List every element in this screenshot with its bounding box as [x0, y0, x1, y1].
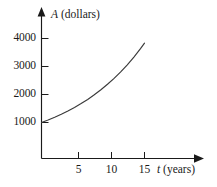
x-tick-label-15: 15 [134, 163, 156, 175]
y-axis-arrow-icon [38, 7, 46, 17]
x-axis-unit: (years) [163, 163, 195, 175]
x-tick-label-10: 10 [101, 163, 123, 175]
y-axis-variable: A [51, 8, 58, 20]
x-tick-label-5: 5 [68, 163, 90, 175]
x-axis-arrow-icon [194, 154, 204, 163]
x-axis-title: t (years) [157, 163, 195, 175]
y-axis-unit: (dollars) [61, 8, 100, 20]
y-tick-label-3000: 3000 [2, 59, 36, 71]
y-axis-title: A (dollars) [51, 8, 100, 20]
y-tick-label-2000: 2000 [2, 87, 36, 99]
chart-figure: 4000 3000 2000 1000 5 10 15 A (dollars) … [0, 0, 217, 187]
y-tick-label-1000: 1000 [2, 115, 36, 127]
y-tick-label-4000: 4000 [2, 31, 36, 43]
x-axis-variable: t [157, 163, 160, 175]
growth-curve [42, 43, 145, 122]
